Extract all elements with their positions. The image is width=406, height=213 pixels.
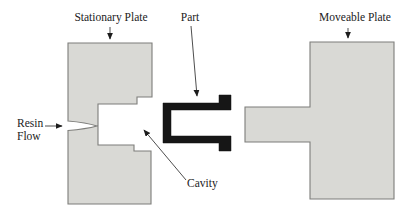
part-arrow <box>191 26 197 96</box>
moveable-plate-shape <box>245 42 394 199</box>
part-label: Part <box>181 11 200 24</box>
stationary-plate-shape <box>68 43 152 204</box>
moveable-plate-label: Moveable Plate <box>319 11 391 24</box>
stationary-plate-label: Stationary Plate <box>74 11 147 24</box>
molded-part-shape <box>163 95 231 151</box>
resin-flow-label: Resin Flow <box>17 117 43 143</box>
injection-mold-diagram: Stationary Plate Part Moveable Plate Res… <box>0 0 406 213</box>
resin-flow-label-line1: Resin <box>17 117 43 130</box>
cavity-label: Cavity <box>187 177 218 190</box>
resin-flow-label-line2: Flow <box>17 130 43 143</box>
